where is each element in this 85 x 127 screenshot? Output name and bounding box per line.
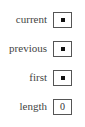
variable-row-previous: previous	[0, 41, 85, 57]
variable-box	[53, 70, 72, 86]
variable-row-current: current	[0, 12, 85, 28]
variable-label: first	[29, 70, 47, 86]
variable-box	[53, 12, 72, 28]
variable-row-first: first	[0, 70, 85, 86]
variable-label: previous	[9, 41, 47, 57]
variable-label: current	[16, 12, 47, 28]
pointer-dot-icon	[61, 47, 65, 51]
variable-box: 0	[53, 99, 72, 115]
variable-box	[53, 41, 72, 57]
pointer-dot-icon	[61, 76, 65, 80]
variable-row-length: length 0	[0, 99, 85, 115]
variable-label: length	[20, 99, 48, 115]
variable-value: 0	[60, 100, 65, 114]
pointer-dot-icon	[61, 18, 65, 22]
